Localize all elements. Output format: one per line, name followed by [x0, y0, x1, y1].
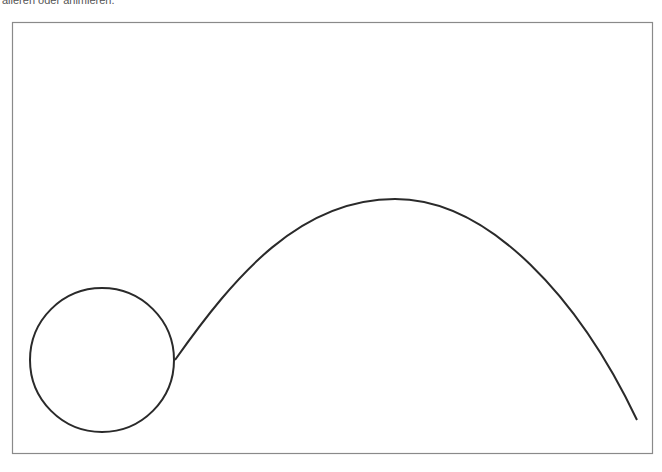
ball-circle	[30, 288, 174, 432]
trajectory-diagram	[0, 0, 662, 472]
trajectory-curve	[175, 199, 637, 420]
diagram-frame	[13, 23, 653, 454]
